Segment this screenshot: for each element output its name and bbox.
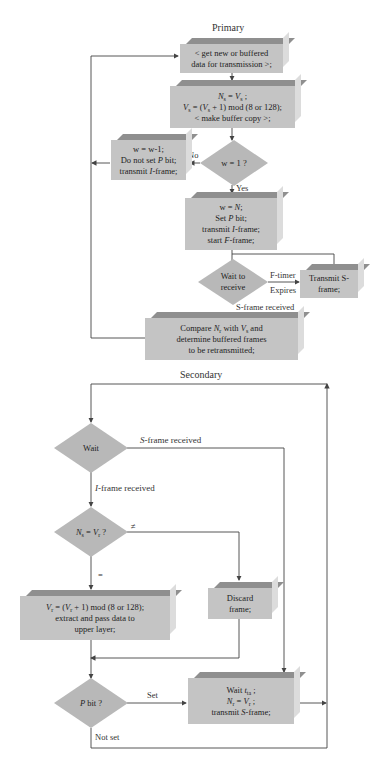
secondary-s-frame-label: S-frame received xyxy=(140,435,201,445)
wait-to-receive-decision: Wait toreceive xyxy=(198,259,268,305)
yes-branch-text: w = N; Set P bit; transmit I-frame; star… xyxy=(202,202,260,246)
secondary-wait-decision: Wait xyxy=(54,423,128,473)
window-decision: w = 1 ? xyxy=(200,140,268,186)
get-data-text: < get new or buffereddata for transmissi… xyxy=(191,48,272,70)
transmit-s-frame-box: Transmit S-frame; xyxy=(300,270,358,298)
sequence-box: Ns = Vs ; Vs = (Vs + 1) mod (8 or 128); … xyxy=(170,86,295,128)
ack-box: Wait tta ; Nr = Vr ; transmit S-frame; xyxy=(188,678,294,724)
p-bit-decision: P bit ? xyxy=(54,678,128,728)
sequence-check-decision: Ns = Vr ? xyxy=(54,507,128,557)
no-branch-text: w = w-1; Do not set P bit; transmit I-fr… xyxy=(120,144,178,177)
get-data-box: < get new or buffereddata for transmissi… xyxy=(180,44,283,73)
no-branch-box: w = w-1; Do not set P bit; transmit I-fr… xyxy=(111,140,186,180)
ack-text: Wait tta ; Nr = Vr ; transmit S-frame; xyxy=(211,685,270,718)
set-label: Set xyxy=(147,690,158,700)
s-frame-received-label: S-frame received xyxy=(236,302,294,312)
primary-title: Primary xyxy=(212,22,244,33)
secondary-title: Secondary xyxy=(180,369,222,380)
compare-box: Compare Nr with Vs and determine buffere… xyxy=(145,318,298,360)
expires-label: Expires xyxy=(270,285,296,295)
not-set-label: Not set xyxy=(95,732,119,742)
yes-branch-box: w = N; Set P bit; transmit I-frame; star… xyxy=(185,198,277,250)
accept-frame-box: Vr = (Vr + 1) mod (8 or 128); extract an… xyxy=(20,596,170,640)
compare-text: Compare Nr with Vs and determine buffere… xyxy=(177,323,267,356)
f-timer-label: F-timer xyxy=(270,270,296,280)
equal-label: = xyxy=(98,570,103,580)
sequence-text: Ns = Vs ; Vs = (Vs + 1) mod (8 or 128); … xyxy=(183,91,282,124)
accept-frame-text: Vr = (Vr + 1) mod (8 or 128); extract an… xyxy=(46,602,144,635)
i-frame-received-label: I-frame received xyxy=(95,483,155,493)
discard-frame-box: Discardframe; xyxy=(208,588,272,619)
not-equal-label: ≠ xyxy=(131,521,136,531)
